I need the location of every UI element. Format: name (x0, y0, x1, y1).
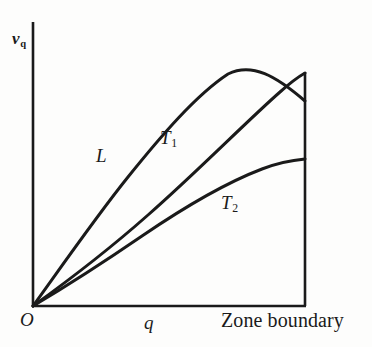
curve-label-t1-subscript: 1 (171, 137, 178, 150)
y-axis-label-base: v (12, 29, 20, 48)
curve-label-t1-base: T (160, 127, 171, 148)
curve-T2 (33, 159, 305, 306)
curve-label-t2-subscript: 2 (232, 202, 239, 215)
plot-svg (0, 0, 372, 347)
curve-label-t2-base: T (221, 192, 232, 213)
origin-label: O (20, 310, 34, 329)
zone-boundary-label: Zone boundary (221, 310, 344, 330)
curve-label-L-base: L (96, 145, 107, 166)
figure-container: vq L T1 T2 O q Zone boundary (0, 0, 372, 347)
curve-T1 (33, 73, 305, 306)
x-axis-label: q (144, 313, 154, 332)
curve-label-t2: T2 (221, 193, 238, 212)
curve-label-L: L (96, 146, 107, 165)
y-axis-label: vq (12, 30, 26, 47)
y-axis-label-subscript: q (20, 38, 26, 49)
curve-label-t1: T1 (160, 128, 177, 147)
